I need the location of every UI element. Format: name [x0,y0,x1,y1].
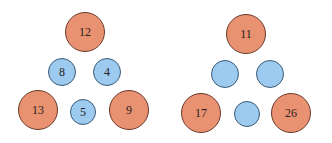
node-value: 11 [240,27,252,42]
circle-bottom-left: 13 [18,90,58,130]
circle-bottom-right: 9 [109,90,149,130]
circle-mid-right: 4 [93,58,121,86]
circle-bottom-left: 17 [181,93,221,133]
circle-top: 12 [65,12,105,52]
circle-mid-right [256,60,284,88]
node-value: 8 [59,65,65,80]
node-value: 9 [126,103,132,118]
circle-mid-left [211,60,239,88]
node-value: 4 [104,65,110,80]
circle-bottom-middle [234,101,260,127]
circle-bottom-right: 26 [271,93,311,133]
circle-mid-left: 8 [48,58,76,86]
node-value: 17 [195,106,207,121]
node-value: 5 [80,105,86,120]
node-value: 26 [285,106,297,121]
circle-bottom-middle: 5 [70,99,96,125]
node-value: 13 [32,103,44,118]
node-value: 12 [79,25,91,40]
circle-top: 11 [226,14,266,54]
